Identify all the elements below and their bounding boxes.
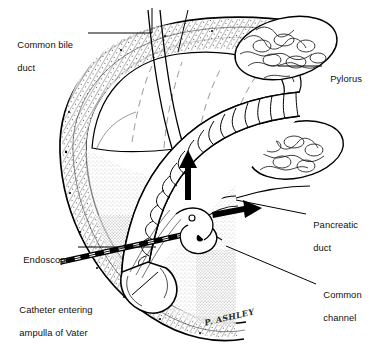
label-pylorus: Pylorus <box>325 62 362 85</box>
label-catheter-ampulla: Catheter entering ampulla of Vater <box>14 293 93 339</box>
label-line-1: Pylorus <box>330 73 362 84</box>
label-line-2: ampulla of Vater <box>19 327 87 338</box>
label-line-1: Pancreatic <box>313 219 358 230</box>
label-line-1: Catheter entering <box>19 304 92 315</box>
label-endoscope: Endoscope <box>18 243 71 266</box>
label-line-1: Common <box>323 289 361 300</box>
label-line-2: channel <box>323 312 356 323</box>
label-common-channel: Common channel <box>318 278 362 324</box>
label-pancreatic-duct: Pancreatic duct <box>308 208 358 254</box>
label-line-1: Common bile <box>17 39 73 50</box>
label-line-2: duct <box>313 242 331 253</box>
label-line-2: duct <box>17 62 35 73</box>
label-common-bile-duct: Common bile duct <box>12 28 73 74</box>
label-line-1: Endoscope <box>23 254 70 265</box>
